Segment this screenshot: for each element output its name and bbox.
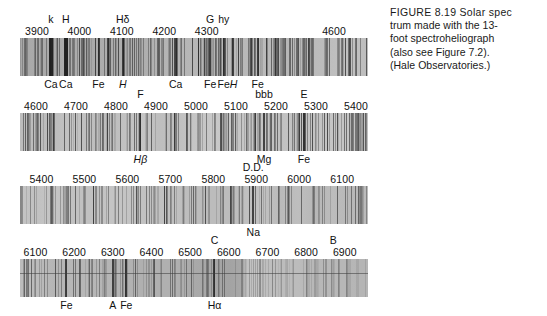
absorption-line [22,186,23,224]
absorption-lines [20,38,368,76]
absorption-line [49,113,50,151]
absorption-line [95,38,96,76]
absorption-line [136,186,137,224]
absorption-line [345,186,346,224]
strong-absorption-line [125,259,127,297]
absorption-line [134,38,135,76]
absorption-line [355,38,356,76]
wavelength-tick-label: 4100 [110,25,134,38]
absorption-line [151,259,152,297]
absorption-line [309,38,310,76]
absorption-line [138,186,139,224]
absorption-line [176,186,177,224]
absorption-line [242,38,243,76]
fraunhofer-label: bbb [255,88,273,100]
absorption-line [339,38,340,76]
absorption-line [75,186,76,224]
absorption-line [120,259,121,297]
absorption-line [111,113,112,151]
absorption-line [299,113,300,151]
absorption-line [236,38,237,76]
absorption-line [351,186,352,224]
absorption-line [220,186,221,224]
wavelength-tick-label: 6000 [287,173,311,186]
absorption-line [41,38,42,76]
absorption-line [172,38,173,76]
strong-absorption-line [65,259,67,297]
absorption-line [106,259,107,297]
absorption-line [363,186,364,224]
absorption-line [106,186,107,224]
figure-caption: FIGURE 8.19 Solar spectrum made with the… [390,6,547,72]
strip-2-fraunhofer-row: FbbbE [20,88,368,100]
absorption-line [183,186,184,224]
wavelength-tick-label: 4600 [24,100,48,113]
absorption-line [313,38,314,76]
absorption-line [26,259,27,297]
absorption-line [71,113,72,151]
absorption-line [104,38,105,76]
absorption-line [366,186,367,224]
absorption-line [170,113,171,151]
absorption-line [212,113,213,151]
strip-1-spectrum-band [20,38,368,76]
absorption-line [202,113,203,151]
absorption-lines [20,113,368,151]
absorption-line [241,113,242,151]
absorption-line [220,113,221,151]
absorption-line [92,259,93,297]
absorption-line [347,186,348,224]
absorption-line [349,38,350,76]
absorption-line [239,186,240,224]
absorption-line [266,113,267,151]
absorption-line [68,186,69,224]
strip-2-block: FbbbE46004700480049005000510052005300540… [20,88,368,166]
absorption-line [330,186,331,224]
absorption-line [126,186,127,224]
absorption-line [81,113,82,151]
absorption-line [235,113,236,151]
absorption-line [227,38,228,76]
absorption-line [22,38,23,76]
absorption-line [72,38,73,76]
absorption-line [324,186,325,224]
absorption-line [91,113,92,151]
absorption-line [116,38,117,76]
fraunhofer-label: B [330,234,337,246]
element-label: A [109,299,116,312]
absorption-line [362,113,363,151]
absorption-line [269,186,270,224]
absorption-line [228,113,229,151]
absorption-line [289,186,290,224]
absorption-line [130,113,131,151]
absorption-line [106,113,107,151]
absorption-line [358,186,359,224]
absorption-line [73,38,74,76]
absorption-line [254,38,255,76]
absorption-line [298,38,299,76]
absorption-line [220,38,221,76]
strong-absorption-line [112,259,114,297]
absorption-line [58,259,59,297]
absorption-line [79,38,80,76]
absorption-line [158,186,159,224]
absorption-line [60,186,61,224]
absorption-line [35,38,36,76]
wavelength-tick-label: 6800 [294,246,318,259]
wavelength-tick-label: 6900 [333,246,357,259]
absorption-line [143,38,144,76]
absorption-line [168,38,169,76]
wavelength-tick-label: 6100 [330,173,354,186]
absorption-line [267,38,268,76]
absorption-line [44,186,45,224]
absorption-line [303,38,304,76]
absorption-line [157,186,158,224]
absorption-line [88,38,89,76]
absorption-line [275,38,276,76]
absorption-line [248,38,249,76]
absorption-line [281,113,282,151]
absorption-line [327,38,328,76]
absorption-line [84,186,85,224]
absorption-line [146,186,147,224]
absorption-line [154,38,155,76]
